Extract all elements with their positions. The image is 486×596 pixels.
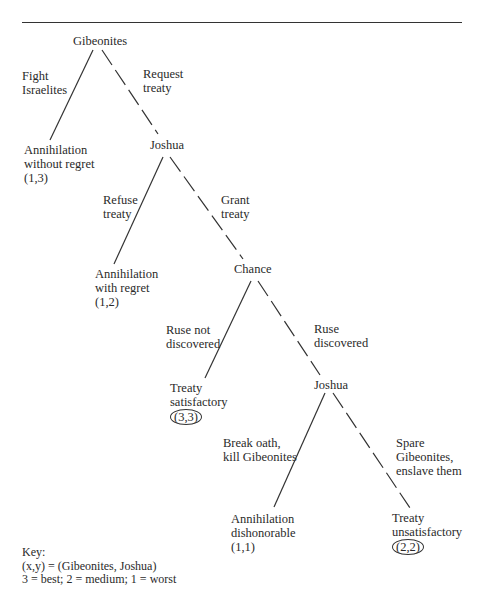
label-line: Break oath, bbox=[223, 436, 297, 450]
edge-ruse-discovered bbox=[258, 281, 320, 375]
key-line: (x,y) = (Gibeonites, Joshua) bbox=[22, 560, 176, 574]
label-spare-gibeonites: Spare Gibeonites, enslave them bbox=[396, 436, 462, 478]
outcome-line: without regret bbox=[24, 157, 94, 171]
payoff: (1,3) bbox=[24, 171, 48, 185]
label-ruse-not-discovered: Ruse not discovered bbox=[166, 323, 220, 351]
node-joshua-1: Joshua bbox=[150, 138, 184, 152]
label-line: Gibeonites, bbox=[396, 450, 462, 464]
label-line: treaty bbox=[221, 207, 249, 221]
label-fight-israelites: Fight Israelites bbox=[22, 69, 67, 97]
outcome-line: Annihilation bbox=[231, 512, 296, 526]
outcome-line: Treaty bbox=[170, 381, 228, 395]
label-refuse-treaty: Refuse treaty bbox=[103, 193, 138, 221]
outcome-annihilation-dishonorable: Annihilation dishonorable (1,1) bbox=[231, 512, 296, 554]
outcome-annihilation-with-regret: Annihilation with regret (1,2) bbox=[95, 267, 158, 309]
label-break-oath: Break oath, kill Gibeonites bbox=[223, 436, 297, 464]
outcome-line: satisfactory bbox=[170, 395, 228, 409]
label-line: Fight bbox=[22, 69, 67, 83]
key-legend: Key: (x,y) = (Gibeonites, Joshua) 3 = be… bbox=[22, 546, 176, 587]
label-line: Grant bbox=[221, 193, 249, 207]
label-line: Ruse not bbox=[166, 323, 220, 337]
outcome-annihilation-without-regret: Annihilation without regret (1,3) bbox=[24, 143, 94, 185]
outcome-line: unsatisfactory bbox=[392, 525, 462, 539]
key-title: Key: bbox=[22, 546, 176, 560]
label-grant-treaty: Grant treaty bbox=[221, 193, 249, 221]
node-gibeonites: Gibeonites bbox=[73, 34, 127, 48]
node-joshua-2: Joshua bbox=[314, 378, 348, 392]
label-line: Spare bbox=[396, 436, 462, 450]
label-line: Request bbox=[143, 67, 183, 81]
outcome-treaty-unsatisfactory: Treaty unsatisfactory (2,2) bbox=[392, 511, 462, 555]
label-line: kill Gibeonites bbox=[223, 450, 297, 464]
game-tree-edges bbox=[0, 0, 486, 596]
outcome-treaty-satisfactory: Treaty satisfactory (3,3) bbox=[170, 381, 228, 425]
label-line: treaty bbox=[103, 207, 138, 221]
label-line: discovered bbox=[166, 337, 220, 351]
label-line: treaty bbox=[143, 81, 183, 95]
outcome-line: Annihilation bbox=[95, 267, 158, 281]
key-line: 3 = best; 2 = medium; 1 = worst bbox=[22, 573, 176, 587]
payoff-circled: (3,3) bbox=[170, 409, 202, 425]
label-request-treaty: Request treaty bbox=[143, 67, 183, 95]
label-line: Israelites bbox=[22, 83, 67, 97]
outcome-line: with regret bbox=[95, 281, 158, 295]
outcome-line: Treaty bbox=[392, 511, 462, 525]
payoff-circled: (2,2) bbox=[392, 539, 424, 555]
label-line: discovered bbox=[314, 336, 368, 350]
label-line: Refuse bbox=[103, 193, 138, 207]
label-ruse-discovered: Ruse discovered bbox=[314, 322, 368, 350]
payoff: (1,1) bbox=[231, 540, 255, 554]
label-line: enslave them bbox=[396, 464, 462, 478]
payoff: (1,2) bbox=[95, 295, 119, 309]
outcome-line: Annihilation bbox=[24, 143, 94, 157]
outcome-line: dishonorable bbox=[231, 526, 296, 540]
label-line: Ruse bbox=[314, 322, 368, 336]
node-chance: Chance bbox=[234, 262, 271, 276]
